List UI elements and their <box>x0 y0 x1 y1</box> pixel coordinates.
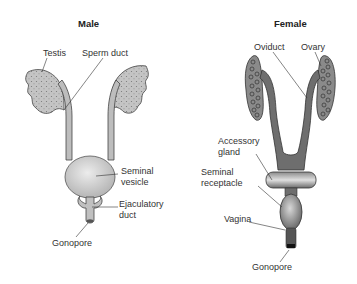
vagina <box>280 194 302 230</box>
ejaculatory-duct-label-1: Ejaculatory <box>119 199 164 209</box>
oviducts <box>260 70 320 170</box>
ejaculatory-duct <box>78 196 102 223</box>
seminal-receptacle-label-2: receptacle <box>201 178 243 188</box>
female-title: Female <box>274 18 307 29</box>
testis-label: Testis <box>43 48 67 58</box>
accessory-gland <box>266 172 316 188</box>
sperm-duct-label: Sperm duct <box>82 48 129 58</box>
male-gonopore-label: Gonopore <box>52 238 92 248</box>
left-ovary <box>245 56 263 121</box>
oviduct-label: Oviduct <box>254 42 285 52</box>
female-diagram: Female <box>201 18 335 272</box>
ovary-label: Ovary <box>301 42 326 52</box>
ejaculatory-duct-label-2: duct <box>119 210 137 220</box>
seminal-vesicle-label-2: vesicle <box>121 177 149 187</box>
female-gonopore-label: Gonopore <box>252 262 292 272</box>
vagina-label: Vagina <box>224 214 251 224</box>
reproductive-systems-diagram: Male Testis Sperm duct Seminal vesicle E… <box>0 0 357 284</box>
male-diagram: Male Testis Sperm duct Seminal vesicle E… <box>26 18 164 248</box>
accessory-gland-label-1: Accessory <box>218 136 260 146</box>
seminal-vesicle <box>65 156 115 198</box>
accessory-gland-label-2: gland <box>218 147 240 157</box>
seminal-vesicle-label-1: Seminal <box>121 166 154 176</box>
male-title: Male <box>78 18 99 29</box>
seminal-receptacle-label-1: Seminal <box>201 167 234 177</box>
